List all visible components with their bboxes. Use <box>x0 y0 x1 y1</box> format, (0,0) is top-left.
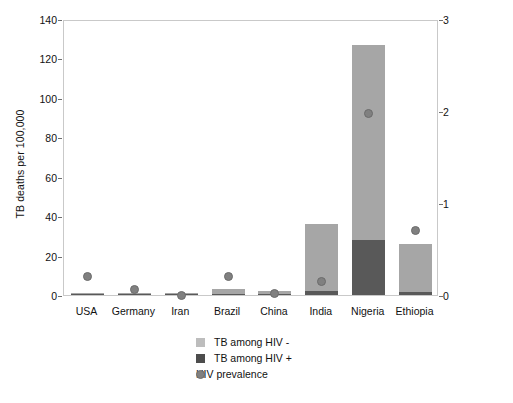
y-tick-mark-right <box>439 204 443 205</box>
hiv-prevalence-point-usa[interactable] <box>83 272 92 281</box>
bar-segment-hiv-positive <box>212 294 245 295</box>
bar-ethiopia[interactable] <box>399 244 432 295</box>
y-tick-mark-right <box>439 20 443 21</box>
plot-area <box>63 20 438 296</box>
hiv-prevalence-point-brazil[interactable] <box>224 272 233 281</box>
y-tick-label-left: 120 <box>23 54 57 64</box>
legend-circle-icon <box>196 370 205 379</box>
hiv-prevalence-point-germany[interactable] <box>130 285 139 294</box>
hiv-prevalence-point-china[interactable] <box>270 289 279 298</box>
y-tick-mark-left <box>58 217 62 218</box>
bar-segment-hiv-negative <box>71 293 104 294</box>
y-tick-label-right: 1 <box>443 199 467 209</box>
bar-segment-hiv-negative <box>352 45 385 240</box>
y-tick-mark-left <box>58 138 62 139</box>
bar-brazil[interactable] <box>212 289 245 295</box>
hiv-prevalence-point-nigeria[interactable] <box>364 109 373 118</box>
bar-segment-hiv-positive <box>399 292 432 295</box>
hiv-prevalence-point-ethiopia[interactable] <box>411 226 420 235</box>
y-tick-label-left: 20 <box>23 252 57 262</box>
y-tick-label-left: 0 <box>23 291 57 301</box>
y-tick-mark-left <box>58 257 62 258</box>
y-tick-mark-left <box>58 296 62 297</box>
bar-nigeria[interactable] <box>352 45 385 295</box>
legend-item-2[interactable]: HIV prevalence <box>196 366 292 382</box>
hiv-prevalence-point-iran[interactable] <box>177 291 186 300</box>
legend-square-icon <box>196 354 205 363</box>
legend-item-0[interactable]: TB among HIV - <box>196 334 292 350</box>
bar-segment-hiv-positive <box>305 291 338 295</box>
legend-item-label: HIV prevalence <box>196 368 268 380</box>
legend-item-label: TB among HIV + <box>214 352 292 364</box>
legend-item-1[interactable]: TB among HIV + <box>196 350 292 366</box>
bar-segment-hiv-negative <box>399 244 432 292</box>
legend-item-label: TB among HIV - <box>214 336 289 348</box>
y-tick-mark-left <box>58 99 62 100</box>
y-tick-label-right: 3 <box>443 15 467 25</box>
y-tick-label-right: 2 <box>443 107 467 117</box>
x-tick-label-ethiopia: Ethiopia <box>375 306 455 317</box>
bar-segment-hiv-negative <box>212 289 245 294</box>
y-tick-label-left: 60 <box>23 173 57 183</box>
y-tick-mark-left <box>58 20 62 21</box>
y-tick-mark-right <box>439 112 443 113</box>
y-tick-label-left: 80 <box>23 133 57 143</box>
bar-segment-hiv-positive <box>352 240 385 295</box>
y-tick-label-right: 0 <box>443 291 467 301</box>
y-tick-label-left: 140 <box>23 15 57 25</box>
bar-segment-hiv-positive <box>71 294 104 295</box>
y-tick-label-left: 100 <box>23 94 57 104</box>
y-tick-mark-left <box>58 178 62 179</box>
bar-usa[interactable] <box>71 293 104 295</box>
legend-square-icon <box>196 338 205 347</box>
y-tick-mark-left <box>58 59 62 60</box>
tb-hiv-chart-figure: TB deaths per 100,000 HIV prevalence (%)… <box>0 0 513 403</box>
y-tick-mark-right <box>439 296 443 297</box>
y-tick-label-left: 40 <box>23 212 57 222</box>
chart-legend: TB among HIV -TB among HIV +HIV prevalen… <box>196 334 292 382</box>
